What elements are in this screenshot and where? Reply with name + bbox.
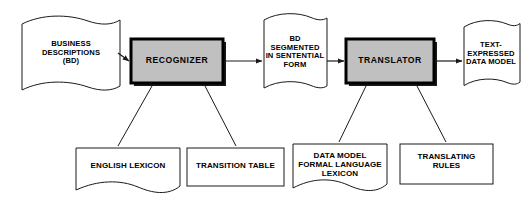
english-lexicon-shape [76, 148, 180, 193]
data-model-lexicon-shape [293, 144, 387, 191]
translating-rules-shape [400, 144, 493, 184]
transition-table-shape [187, 148, 284, 186]
bd-segmented-shape [264, 14, 327, 88]
text-expressed-data-model-shape [464, 21, 520, 86]
line-recognizer-to-transition-table [205, 86, 236, 146]
line-translator-to-data-model-lexicon [339, 86, 366, 142]
diagram-svg [0, 0, 530, 210]
line-recognizer-to-english-lexicon [118, 86, 152, 146]
recognizer-shape [131, 39, 223, 83]
diagram-canvas: BUSINESS DESCRIPTIONS (BD) RECOGNIZER BD… [0, 0, 530, 210]
business-descriptions-shape [22, 16, 120, 90]
line-translator-to-translating-rules [417, 86, 446, 142]
translator-shape [346, 39, 434, 83]
